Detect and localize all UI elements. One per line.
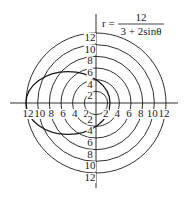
tick-left-8: 8 bbox=[49, 107, 55, 119]
formula-numerator: 12 bbox=[136, 11, 147, 23]
tick-right-12: 12 bbox=[159, 107, 170, 119]
tick-right-8: 8 bbox=[138, 107, 144, 119]
tick-down-2: 2 bbox=[87, 113, 93, 125]
tick-up-2: 2 bbox=[87, 89, 93, 101]
tick-right-6: 6 bbox=[126, 107, 132, 119]
tick-up-12: 12 bbox=[85, 31, 96, 43]
tick-down-12: 12 bbox=[85, 171, 96, 183]
formula-label: r = 12 3 + 2sinθ bbox=[102, 11, 164, 37]
tick-up-6: 6 bbox=[87, 66, 93, 78]
tick-down-8: 8 bbox=[87, 148, 93, 160]
tick-left-10: 10 bbox=[34, 107, 46, 119]
formula-denominator: 3 + 2sinθ bbox=[121, 25, 162, 37]
tick-left-6: 6 bbox=[60, 107, 66, 119]
tick-down-4: 4 bbox=[87, 124, 93, 136]
tick-up-8: 8 bbox=[87, 54, 93, 66]
tick-up-10: 10 bbox=[85, 43, 97, 55]
tick-left-12: 12 bbox=[23, 107, 34, 119]
tick-down-6: 6 bbox=[87, 136, 93, 148]
tick-right-10: 10 bbox=[147, 107, 159, 119]
tick-up-4: 4 bbox=[87, 78, 93, 90]
tick-right-4: 4 bbox=[115, 107, 121, 119]
formula-lhs: r = bbox=[102, 17, 115, 29]
tick-down-10: 10 bbox=[85, 159, 97, 171]
polar-chart: 24681012121086422468101224681012 r = 12 … bbox=[0, 0, 190, 198]
tick-left-4: 4 bbox=[72, 107, 78, 119]
tick-right-2: 2 bbox=[103, 107, 109, 119]
